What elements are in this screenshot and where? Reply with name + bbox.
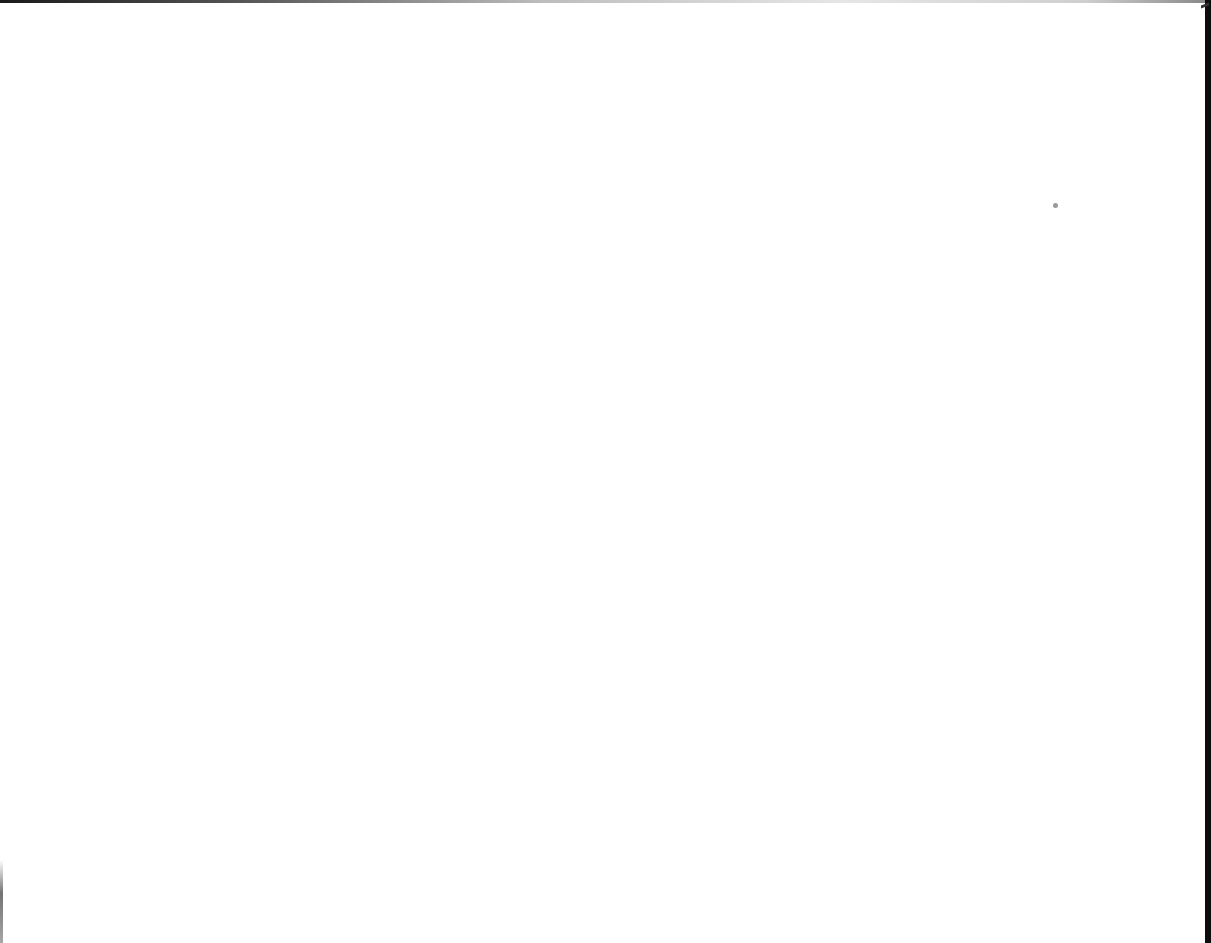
top-edge-shadow (0, 0, 1205, 3)
right-edge-border (1205, 0, 1211, 943)
scan-speck (1053, 203, 1058, 208)
blank-page (0, 0, 1211, 943)
bottom-left-edge-shadow (0, 860, 3, 943)
